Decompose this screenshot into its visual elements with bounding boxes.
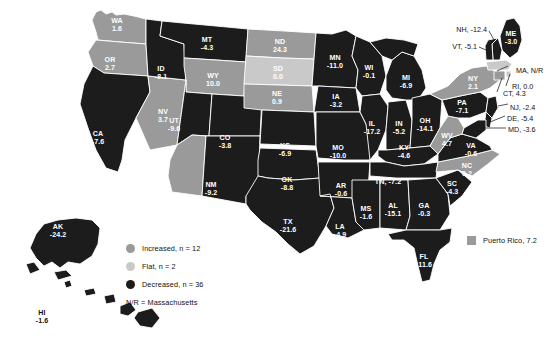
state-ME[interactable]	[500, 18, 522, 58]
state-SD[interactable]	[244, 56, 314, 86]
territory-label: Puerto Rico, 7.2	[483, 236, 537, 245]
state-NE[interactable]	[244, 84, 314, 112]
state-WA[interactable]	[92, 10, 146, 44]
territory-puerto-rico[interactable]: Puerto Rico, 7.2	[467, 236, 537, 245]
legend-swatch-flat-icon	[126, 262, 135, 271]
territory-swatch-icon	[467, 236, 476, 245]
state-FL[interactable]	[388, 228, 452, 282]
state-IA[interactable]	[314, 86, 360, 112]
legend-item-decreased[interactable]: Decreased, n = 36	[126, 277, 266, 292]
legend-label-increased: Increased, n = 12	[142, 244, 200, 253]
state-shapes	[26, 10, 522, 328]
leader-NH	[489, 31, 494, 40]
legend-swatch-increased-icon	[126, 244, 135, 253]
state-RI[interactable]	[506, 71, 511, 77]
state-KS[interactable]	[260, 110, 316, 146]
us-map-svg	[0, 0, 552, 339]
state-CT[interactable]	[494, 71, 505, 80]
legend-item-flat[interactable]: Flat, n = 2	[126, 259, 266, 274]
state-MN[interactable]	[312, 30, 358, 88]
us-choropleth-map: WA 1.6 OR 2.7 ID -8.1 MT -4.3 ND 24.3 SD…	[0, 0, 552, 339]
state-WY[interactable]	[184, 58, 246, 96]
state-AK[interactable]	[26, 218, 100, 280]
legend-swatch-decreased-icon	[126, 280, 135, 289]
state-NY[interactable]	[430, 66, 500, 100]
state-IN[interactable]	[386, 100, 412, 150]
leader-NJ	[498, 104, 508, 106]
legend-label-flat: Flat, n = 2	[142, 262, 176, 271]
state-MD[interactable]	[462, 120, 486, 138]
state-MS[interactable]	[352, 180, 380, 230]
legend-note-not-reported: N/R = Massachusetts	[126, 298, 266, 307]
state-OK[interactable]	[258, 148, 320, 180]
state-AL[interactable]	[380, 180, 410, 230]
legend-item-increased[interactable]: Increased, n = 12	[126, 241, 266, 256]
state-MA[interactable]	[486, 60, 512, 70]
map-legend: Increased, n = 12 Flat, n = 2 Decreased,…	[126, 241, 266, 307]
legend-label-decreased: Decreased, n = 36	[142, 280, 204, 289]
state-ND[interactable]	[246, 29, 316, 59]
